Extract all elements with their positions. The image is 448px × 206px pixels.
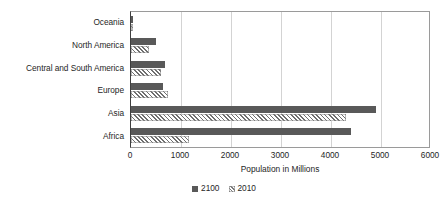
bar-group xyxy=(131,105,429,122)
category-label: Europe xyxy=(98,86,128,95)
bar-2010 xyxy=(131,46,149,53)
bar-2100 xyxy=(131,16,133,23)
x-tick-label: 6000 xyxy=(421,150,439,160)
bar-2100 xyxy=(131,61,165,68)
x-tick-label: 3000 xyxy=(271,150,289,160)
chart-legend: 21002010 xyxy=(0,184,448,193)
bar-group xyxy=(131,127,429,144)
bar-2100 xyxy=(131,106,376,113)
category-axis: OceaniaNorth AmericaCentral and South Am… xyxy=(0,11,128,148)
x-tick-label: 0 xyxy=(128,150,133,160)
category-label: North America xyxy=(72,41,128,50)
category-label: Oceania xyxy=(93,18,128,27)
bar-2100 xyxy=(131,128,351,135)
legend-swatch-icon xyxy=(192,186,198,192)
legend-label: 2010 xyxy=(238,184,256,193)
category-label: Asia xyxy=(108,109,128,118)
x-axis-ticks: 0100020003000400050006000 xyxy=(130,150,430,162)
bar-2100 xyxy=(131,83,163,90)
bar-2100 xyxy=(131,38,156,45)
category-label: Africa xyxy=(103,132,128,141)
legend-item[interactable]: 2010 xyxy=(229,184,256,193)
x-tick-label: 5000 xyxy=(371,150,389,160)
bar-group xyxy=(131,15,429,32)
bar-groups xyxy=(131,12,429,147)
bar-2010 xyxy=(131,136,189,143)
legend-label: 2100 xyxy=(201,184,219,193)
legend-item[interactable]: 2100 xyxy=(192,184,219,193)
bar-2010 xyxy=(131,69,161,76)
bar-2010 xyxy=(131,91,168,98)
bar-group xyxy=(131,37,429,54)
bar-2010 xyxy=(131,24,133,31)
bar-group xyxy=(131,82,429,99)
population-bar-chart: OceaniaNorth AmericaCentral and South Am… xyxy=(0,0,448,206)
x-axis-title: Population in Millions xyxy=(130,164,430,174)
legend-swatch-icon xyxy=(229,186,235,192)
bar-group xyxy=(131,60,429,77)
category-label: Central and South America xyxy=(26,64,128,73)
x-tick-label: 4000 xyxy=(321,150,339,160)
x-tick-label: 1000 xyxy=(171,150,189,160)
plot-area xyxy=(130,11,430,148)
x-tick-label: 2000 xyxy=(221,150,239,160)
bar-2010 xyxy=(131,114,346,121)
